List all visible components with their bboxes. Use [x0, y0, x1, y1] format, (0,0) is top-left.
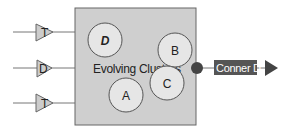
- cluster-d: D: [88, 23, 122, 57]
- input-label-1: T: [41, 26, 49, 40]
- input-label-3: T: [41, 97, 49, 111]
- cluster-c-label: C: [163, 77, 172, 91]
- cluster-a: A: [109, 78, 143, 112]
- output-label: Conner D: [216, 62, 261, 74]
- input-label-2: D: [39, 62, 48, 76]
- input-node-3: T: [36, 94, 53, 112]
- cluster-a-label: A: [122, 89, 130, 103]
- cluster-d-label: D: [101, 34, 110, 48]
- output-port-dot: [191, 62, 203, 74]
- output-arrow-icon: [265, 60, 278, 76]
- input-node-1: T: [36, 24, 53, 41]
- cluster-b-label: B: [171, 44, 179, 58]
- cluster-diagram: T D T Evolving Clusters D A B C Conner D: [0, 0, 289, 133]
- cluster-b: B: [158, 33, 192, 67]
- input-node-2: D: [37, 60, 52, 77]
- cluster-c: C: [150, 66, 184, 100]
